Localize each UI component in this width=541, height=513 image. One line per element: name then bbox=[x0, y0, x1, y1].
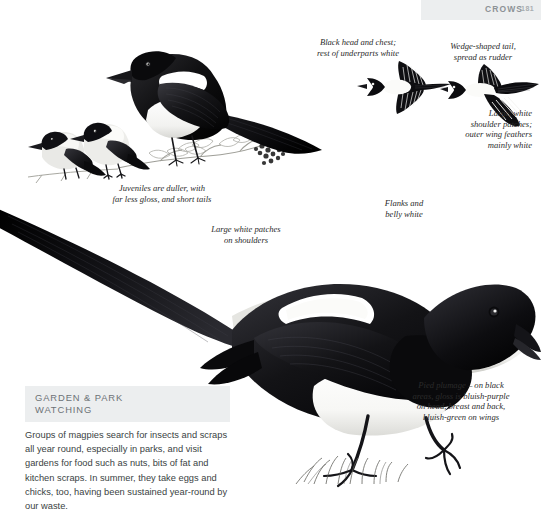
caption-black-head-chest: Black head and chest; rest of underparts… bbox=[294, 37, 422, 58]
page-number: 181 bbox=[521, 5, 534, 12]
juvenile-magpies-illustration bbox=[22, 95, 172, 195]
caption-flanks-belly: Flanks and belly white bbox=[358, 198, 450, 219]
garden-park-watching-box: GARDEN & PARK WATCHING Groups of magpies… bbox=[25, 386, 230, 513]
caption-shoulder-patches: Large, white shoulder patches; outer win… bbox=[396, 108, 532, 150]
infobox-heading: GARDEN & PARK WATCHING bbox=[25, 386, 230, 422]
caption-wedge-tail: Wedge-shaped tail, spread as rudder bbox=[424, 41, 541, 62]
caption-pied-plumage: Pied plumage – on black areas, gloss is … bbox=[384, 380, 538, 422]
caption-juveniles: Juveniles are duller, with far less glos… bbox=[72, 183, 252, 204]
caption-white-patches: Large white patches on shoulders bbox=[184, 224, 308, 245]
section-title: CROWS bbox=[485, 4, 523, 14]
infobox-body-text: Groups of magpies search for insects and… bbox=[25, 422, 230, 513]
